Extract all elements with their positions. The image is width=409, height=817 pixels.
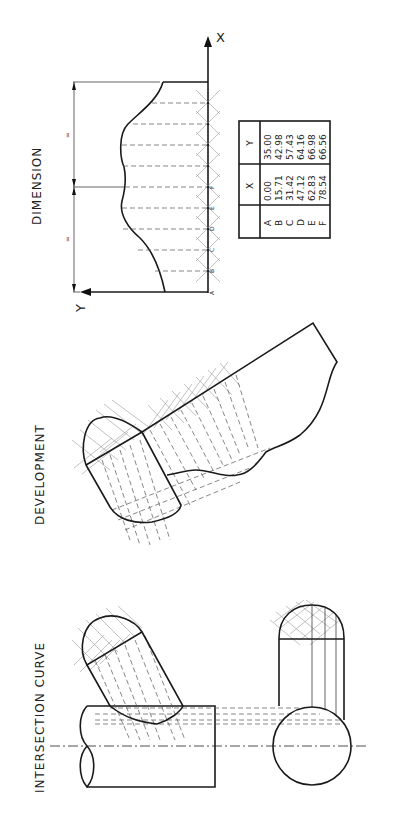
svg-text:C: C <box>285 220 295 226</box>
svg-text:E: E <box>208 206 215 210</box>
dimension-equal-upper: = <box>64 132 72 138</box>
ordinate-lines <box>122 103 208 271</box>
development-title: DEVELOPMENT <box>33 424 47 525</box>
dimension-view: DIMENSION X Y <box>30 30 330 313</box>
svg-text:66.98: 66.98 <box>307 134 317 160</box>
svg-text:15.71: 15.71 <box>274 175 284 201</box>
point-labels: A B C D E F <box>208 185 215 295</box>
drawing-canvas: DIMENSION X Y <box>0 0 409 817</box>
table-header-x: X <box>245 183 255 189</box>
svg-text:E: E <box>307 220 317 226</box>
intersection-title: INTERSECTION CURVE <box>33 642 47 793</box>
coordinate-table: X Y A 0.00 35.00 B 15.71 42.98 C 31.42 5… <box>239 121 330 238</box>
svg-text:0.00: 0.00 <box>263 181 273 201</box>
y-axis-label: Y <box>73 304 88 313</box>
svg-text:35.00: 35.00 <box>263 134 273 160</box>
branch-cap <box>82 616 142 665</box>
svg-text:66.56: 66.56 <box>318 134 328 160</box>
svg-text:31.42: 31.42 <box>285 175 295 201</box>
svg-text:A: A <box>208 290 215 295</box>
y-axis-arrow-icon <box>80 288 91 296</box>
intersection-view: INTERSECTION CURVE <box>33 600 368 793</box>
svg-text:A: A <box>263 219 273 226</box>
svg-text:64.16: 64.16 <box>296 134 306 160</box>
side-view <box>270 600 351 785</box>
dimension-title: DIMENSION <box>30 147 44 225</box>
development-branch-body <box>86 432 181 522</box>
development-branch-cap <box>83 417 142 465</box>
x-axis-label: X <box>216 30 225 45</box>
main-cylinder-break-icon <box>80 706 94 787</box>
development-view: DEVELOPMENT <box>33 323 337 545</box>
main-cylinder-front <box>87 706 215 787</box>
svg-text:78.54: 78.54 <box>318 175 328 201</box>
svg-text:F: F <box>208 185 215 189</box>
svg-text:62.83: 62.83 <box>307 175 317 201</box>
svg-text:47.12: 47.12 <box>296 175 306 201</box>
x-axis-arrow-icon <box>204 36 212 47</box>
svg-text:D: D <box>296 219 306 226</box>
svg-text:B: B <box>274 220 284 226</box>
svg-text:F: F <box>318 221 328 226</box>
dimension-equal-lower: = <box>64 236 72 242</box>
svg-text:57.43: 57.43 <box>285 134 295 160</box>
svg-text:B: B <box>208 269 215 273</box>
svg-text:42.98: 42.98 <box>274 134 284 160</box>
table-header-y: Y <box>245 140 255 147</box>
development-outline <box>86 323 337 476</box>
svg-text:C: C <box>208 248 215 252</box>
svg-text:D: D <box>208 226 215 231</box>
